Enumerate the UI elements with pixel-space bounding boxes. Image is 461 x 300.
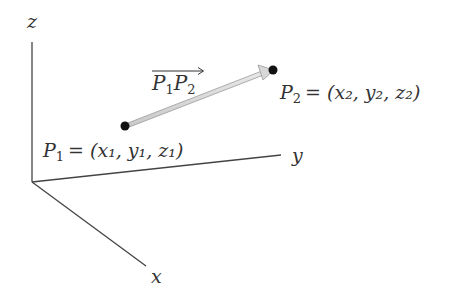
vector-arrow: [124, 65, 274, 129]
point-p1-label: P1= (x₁, y₁, z₁): [42, 139, 183, 164]
x-axis: [32, 182, 146, 266]
point-p2-label: P2= (x₂, y₂, z₂): [279, 81, 420, 106]
svg-text:P1P2: P1P2: [151, 71, 196, 97]
y-axis-label: y: [291, 144, 303, 166]
point-p2: [269, 66, 278, 75]
vector-label: P1P2: [151, 68, 204, 98]
x-axis-label: x: [151, 265, 162, 287]
point-p1: [121, 122, 130, 131]
diagram-canvas: z y x P1P2 P1= (x₁, y₁, z₁) P2= (x₂, y₂,…: [0, 0, 461, 300]
z-axis-label: z: [26, 10, 38, 32]
